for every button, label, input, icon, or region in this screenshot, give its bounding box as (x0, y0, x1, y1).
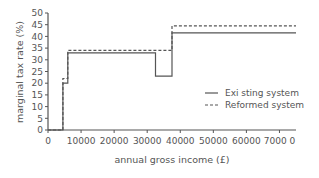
legend: Exi sting system Reformed system (205, 88, 304, 110)
reformed-system-line (48, 26, 296, 130)
tax-rate-chart: 0510152025303540455001000020000300004000… (0, 0, 319, 178)
series-lines (48, 26, 296, 130)
legend-reformed-label: Reformed system (225, 100, 304, 110)
y-tick-label: 30 (32, 55, 44, 65)
y-tick-label: 15 (32, 90, 43, 100)
x-tick-label: 0 (45, 136, 51, 146)
x-tick-label: 50000 (199, 136, 228, 146)
x-tick-label: 20000 (100, 136, 129, 146)
y-tick-label: 50 (32, 8, 44, 18)
y-tick-label: 45 (32, 20, 43, 30)
y-tick-label: 40 (32, 32, 44, 42)
x-axis-label: annual gross income (£) (114, 154, 229, 165)
y-tick-label: 10 (32, 102, 44, 112)
legend-existing-label: Exi sting system (225, 88, 299, 98)
y-axis-label: marginal tax rate (%) (14, 21, 25, 123)
x-tick-label: 60000 (232, 136, 261, 146)
x-tick-label: 10000 (67, 136, 96, 146)
y-tick-label: 0 (37, 125, 43, 135)
axes: 0510152025303540455001000020000300004000… (32, 8, 296, 146)
x-tick-label: 40000 (166, 136, 195, 146)
x-tick-label: 30000 (133, 136, 162, 146)
y-tick-label: 5 (37, 114, 43, 124)
y-tick-label: 20 (32, 78, 44, 88)
y-tick-label: 25 (32, 67, 43, 77)
x-tick-label: 7000 0 (264, 136, 296, 146)
y-tick-label: 35 (32, 43, 43, 53)
